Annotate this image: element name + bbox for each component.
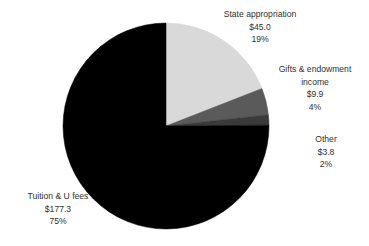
pie-label-other-percent: 2% [286,158,366,171]
pie-label-gifts-endowment-income-name-line2: income [262,76,368,89]
pie-label-tuition-u-fees-value: $177.3 [4,203,112,216]
pie-label-gifts-endowment-income-percent: 4% [262,101,368,114]
pie-label-tuition-u-fees-percent: 75% [4,215,112,228]
pie-label-other-value: $3.8 [286,146,366,159]
pie-label-gifts-endowment-income-value: $9.9 [262,88,368,101]
pie-label-tuition-u-fees-name: Tuition & U fees [4,190,112,203]
pie-label-state-appropriation-value: $45.0 [196,21,324,34]
pie-label-tuition-u-fees: Tuition & U fees $177.3 75% [4,190,112,228]
pie-label-state-appropriation-percent: 19% [196,33,324,46]
pie-label-state-appropriation-name: State appropriation [196,8,324,21]
pie-label-other: Other $3.8 2% [286,133,366,171]
pie-label-other-name: Other [286,133,366,146]
pie-label-gifts-endowment-income: Gifts & endowment income $9.9 4% [262,63,368,113]
pie-label-state-appropriation: State appropriation $45.0 19% [196,8,324,46]
pie-label-gifts-endowment-income-name-line1: Gifts & endowment [262,63,368,76]
pie-chart: State appropriation $45.0 19% Gifts & en… [0,0,369,246]
